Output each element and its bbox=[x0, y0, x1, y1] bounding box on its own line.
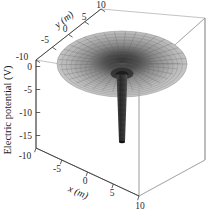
y-tick-label-10: 10 bbox=[96, 0, 106, 10]
potential-singularity-spike bbox=[117, 75, 128, 142]
surface-plot-canvas: -10 -5 0 5 10 y (m) -10 -5 0 5 10 x (m) bbox=[0, 0, 215, 214]
y-tick-label--5: -5 bbox=[41, 35, 49, 45]
y-tick-label--10: -10 bbox=[16, 52, 29, 62]
z-tick-label--15: -15 bbox=[19, 131, 32, 141]
y-tick-label-5: 5 bbox=[82, 12, 87, 22]
x-tick-label-10: 10 bbox=[135, 201, 145, 211]
x-tick-label--5: -5 bbox=[53, 164, 61, 174]
potential-surface bbox=[57, 31, 187, 143]
z-tick-label--5: -5 bbox=[24, 85, 32, 95]
z-axis: 0 -5 -10 -15 Electric potential (V) bbox=[2, 60, 40, 155]
figure-3d-surface-plot: -10 -5 0 5 10 y (m) -10 -5 0 5 10 x (m) bbox=[0, 0, 215, 214]
z-tick-label--10: -10 bbox=[19, 108, 32, 118]
x-tick-label-5: 5 bbox=[110, 188, 115, 198]
x-tick-label-0: 0 bbox=[83, 176, 88, 186]
z-axis-label: Electric potential (V) bbox=[2, 65, 14, 155]
x-tick-label--10: -10 bbox=[19, 151, 32, 161]
x-axis: -10 -5 0 5 10 x (m) bbox=[19, 148, 145, 211]
z-tick-label-0: 0 bbox=[27, 62, 32, 72]
z-axis-ticks bbox=[36, 67, 40, 136]
